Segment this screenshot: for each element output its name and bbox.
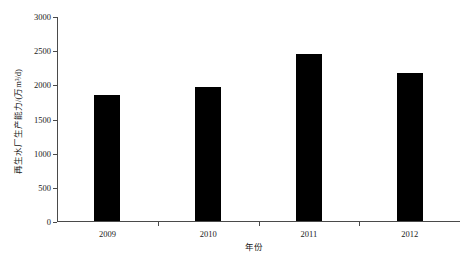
x-tick-mark — [158, 222, 159, 226]
y-axis-line — [57, 17, 58, 222]
plot-area: 050010001500200025003000 200920102011201… — [57, 17, 460, 222]
y-tick-mark — [53, 51, 57, 52]
y-tick-label: 1000 — [34, 149, 51, 158]
y-tick-mark — [53, 188, 57, 189]
x-tick-mark — [359, 222, 360, 226]
x-axis-title-wrap: 年份 — [0, 243, 475, 252]
y-tick-label: 1500 — [34, 115, 51, 124]
y-tick-mark — [53, 154, 57, 155]
y-axis-title: 再生水厂生产能力/(万m³/d) — [10, 19, 26, 224]
x-tick-mark — [259, 222, 260, 226]
y-tick-mark — [53, 222, 57, 223]
x-tick-label: 2012 — [401, 230, 418, 239]
y-tick-label: 2000 — [34, 81, 51, 90]
y-tick-mark — [53, 17, 57, 18]
x-tick-label: 2009 — [99, 230, 116, 239]
y-tick-label: 2500 — [34, 47, 51, 56]
x-axis-title: 年份 — [245, 243, 263, 252]
bar — [195, 87, 221, 221]
y-tick-mark — [53, 85, 57, 86]
bar — [94, 95, 120, 221]
y-tick-label: 3000 — [34, 13, 51, 22]
x-tick-label: 2011 — [301, 230, 318, 239]
bar — [397, 73, 423, 221]
x-tick-label: 2010 — [200, 230, 217, 239]
bar — [296, 54, 322, 221]
y-tick-label: 500 — [38, 184, 51, 193]
y-tick-mark — [53, 120, 57, 121]
bar-chart: 再生水厂生产能力/(万m³/d) 05001000150020002500300… — [0, 0, 475, 265]
y-tick-label: 0 — [47, 218, 51, 227]
